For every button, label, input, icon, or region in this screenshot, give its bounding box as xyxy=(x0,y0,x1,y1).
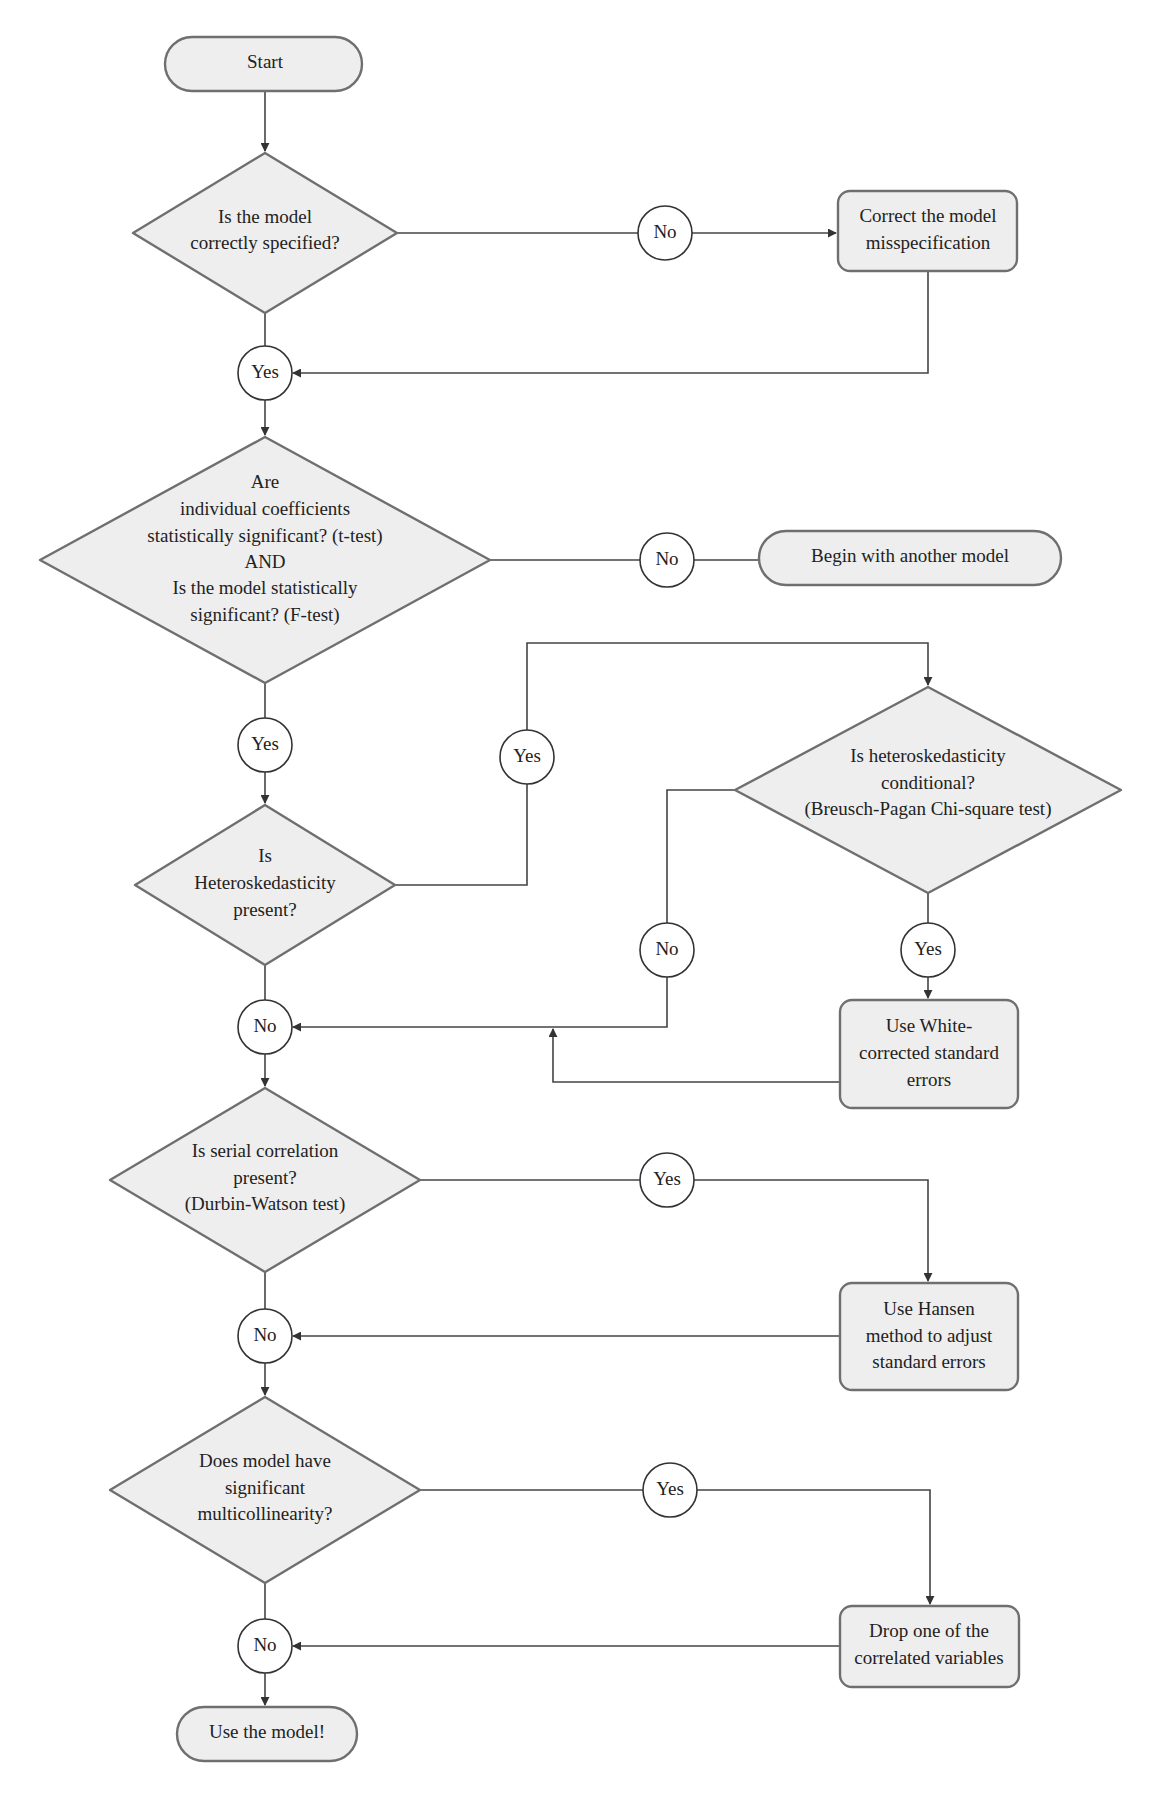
decision-text-line: Is serial correlation xyxy=(192,1140,339,1161)
decision-text-line: Heteroskedasticity xyxy=(194,872,336,893)
decision-heteroskedasticity-present: Is Heteroskedasticity present? xyxy=(135,805,395,965)
decision-text-line: Is the model statistically xyxy=(172,577,358,598)
decision-text-line: AND xyxy=(244,551,285,572)
connector-conditional-yes: Yes xyxy=(901,923,955,977)
decision-text-line: present? xyxy=(233,899,296,920)
start-label: Start xyxy=(247,51,284,72)
connector-hetero-yes: Yes xyxy=(500,730,554,784)
process-text-line: correlated variables xyxy=(854,1647,1003,1668)
connector-spec-yes: Yes xyxy=(238,346,292,400)
process-text-line: method to adjust xyxy=(866,1325,993,1346)
connector-conditional-no: No xyxy=(640,923,694,977)
decision-text-line: present? xyxy=(233,1167,296,1188)
edge-conditional-to-no xyxy=(667,790,735,923)
connector-label: Yes xyxy=(656,1478,684,1499)
start-node: Start xyxy=(165,37,362,91)
process-text-line: Drop one of the xyxy=(869,1620,989,1641)
edge-yes-to-hansen xyxy=(694,1180,928,1281)
connector-label: No xyxy=(653,221,676,242)
connector-label: No xyxy=(655,548,678,569)
connector-signif-yes: Yes xyxy=(238,718,292,772)
decision-text-line: (Durbin-Watson test) xyxy=(185,1193,345,1215)
connector-label: No xyxy=(253,1015,276,1036)
edge-yes-to-conditional xyxy=(527,643,928,730)
decision-statistical-significance: Are individual coefficients statisticall… xyxy=(40,437,490,683)
decision-text-line: significant xyxy=(225,1477,306,1498)
connector-label: Yes xyxy=(653,1168,681,1189)
decision-text-line: conditional? xyxy=(881,772,975,793)
connector-label: No xyxy=(253,1634,276,1655)
decision-text-line: individual coefficients xyxy=(180,498,350,519)
decision-text-line: (Breusch-Pagan Chi-square test) xyxy=(805,798,1052,820)
process-white-corrected-errors: Use White- corrected standard errors xyxy=(840,1000,1018,1108)
connector-label: Yes xyxy=(914,938,942,959)
flowchart-canvas: Start Is the model correctly specified? … xyxy=(0,0,1157,1805)
process-text-line: corrected standard xyxy=(859,1042,999,1063)
edge-yes-to-drop xyxy=(697,1490,930,1604)
process-text-line: misspecification xyxy=(866,232,991,253)
decision-text-line: Is heteroskedasticity xyxy=(850,745,1006,766)
connector-serial-yes: Yes xyxy=(640,1153,694,1207)
decision-serial-correlation: Is serial correlation present? (Durbin-W… xyxy=(110,1088,420,1272)
connector-label: No xyxy=(253,1324,276,1345)
decision-text-line: significant? (F-test) xyxy=(190,604,339,626)
decision-text-line: Are xyxy=(251,471,279,492)
decision-text-line: Is xyxy=(258,845,272,866)
process-text-line: Use Hansen xyxy=(883,1298,975,1319)
terminal-label: Begin with another model xyxy=(811,545,1009,566)
connector-label: Yes xyxy=(251,733,279,754)
process-text-line: standard errors xyxy=(872,1351,985,1372)
connector-multi-yes: Yes xyxy=(643,1463,697,1517)
process-hansen-method: Use Hansen method to adjust standard err… xyxy=(840,1283,1018,1390)
decision-text-line: statistically significant? (t-test) xyxy=(147,525,382,547)
decision-multicollinearity: Does model have significant multicolline… xyxy=(110,1397,420,1583)
decision-text-line: Is the model xyxy=(218,206,312,227)
connector-label: Yes xyxy=(251,361,279,382)
edge-fix-to-yes xyxy=(293,271,928,373)
process-drop-correlated-variable: Drop one of the correlated variables xyxy=(840,1606,1019,1687)
edge-white-to-merge xyxy=(553,1029,840,1082)
edge-no-to-hetero-no xyxy=(293,977,667,1027)
decision-text-line: correctly specified? xyxy=(190,232,339,253)
connector-label: No xyxy=(655,938,678,959)
terminal-label: Use the model! xyxy=(209,1721,325,1742)
terminal-begin-another-model: Begin with another model xyxy=(759,531,1061,585)
connector-label: Yes xyxy=(513,745,541,766)
connector-signif-no: No xyxy=(640,533,694,587)
decision-model-specified: Is the model correctly specified? xyxy=(133,153,397,313)
process-text-line: errors xyxy=(907,1069,951,1090)
edge-hetero-to-yes xyxy=(395,784,527,885)
connector-hetero-no: No xyxy=(238,1000,292,1054)
connector-multi-no: No xyxy=(238,1619,292,1673)
process-text-line: Use White- xyxy=(886,1015,973,1036)
connector-serial-no: No xyxy=(238,1309,292,1363)
process-text-line: Correct the model xyxy=(859,205,996,226)
connector-spec-no: No xyxy=(638,206,692,260)
decision-text-line: Does model have xyxy=(199,1450,331,1471)
decision-text-line: multicollinearity? xyxy=(197,1503,332,1524)
decision-heteroskedasticity-conditional: Is heteroskedasticity conditional? (Breu… xyxy=(735,687,1121,893)
terminal-use-model: Use the model! xyxy=(177,1707,357,1761)
process-correct-misspecification: Correct the model misspecification xyxy=(838,191,1017,271)
